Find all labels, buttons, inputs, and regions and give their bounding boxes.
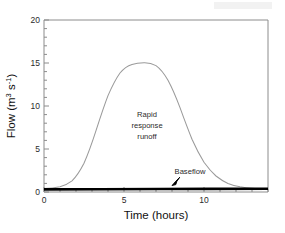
y-tick-label-0: 0 xyxy=(35,187,40,197)
x-axis-title: Time (hours) xyxy=(124,209,189,221)
y-tick-label-5: 5 xyxy=(35,144,40,154)
y-axis-title-suffix: ) xyxy=(5,74,17,78)
baseflow-line xyxy=(44,189,268,190)
baseflow-annotation: Baseflow xyxy=(172,167,206,186)
hydrograph-figure: 0 5 10 15 20 0 xyxy=(0,0,285,233)
rapid-response-line-1: Rapid xyxy=(137,110,157,119)
plot-frame xyxy=(44,20,268,192)
svg-text:Flow (m3 s-1): Flow (m3 s-1) xyxy=(4,74,17,139)
y-tick-label-10: 10 xyxy=(31,101,41,111)
x-axis-tick-labels: 0 5 10 xyxy=(42,195,209,205)
y-axis-title-sup-neg1: -1 xyxy=(4,78,13,85)
rapid-response-runoff-label: Rapid response runoff xyxy=(131,110,162,141)
x-tick-label-5: 5 xyxy=(122,195,127,205)
y-axis-title-mid: s xyxy=(5,84,17,93)
y-axis-title: Flow (m3 s-1) xyxy=(4,74,17,139)
y-axis-title-prefix: Flow (m xyxy=(5,97,17,138)
y-tick-label-15: 15 xyxy=(31,58,41,68)
x-tick-label-10: 10 xyxy=(199,195,209,205)
y-tick-label-20: 20 xyxy=(31,15,41,25)
baseflow-arrow-shaft xyxy=(174,177,180,183)
y-axis-tick-labels: 0 5 10 15 20 xyxy=(31,15,41,197)
scan-artifact xyxy=(214,2,272,9)
rapid-response-line-3: runoff xyxy=(137,132,157,141)
x-tick-label-0: 0 xyxy=(42,195,47,205)
baseflow-label: Baseflow xyxy=(175,167,206,176)
hydrograph-chart: 0 5 10 15 20 0 xyxy=(0,0,285,233)
rapid-response-line-2: response xyxy=(131,121,162,130)
